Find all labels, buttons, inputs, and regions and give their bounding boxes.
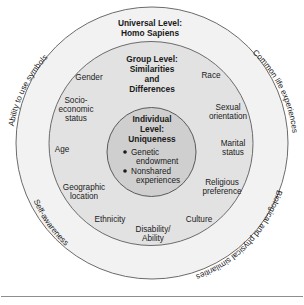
svg-text:Differences: Differences: [129, 84, 175, 94]
svg-text:preference: preference: [202, 187, 242, 196]
svg-text:Individual: Individual: [132, 114, 171, 124]
svg-text:Level:: Level:: [140, 124, 164, 134]
svg-text:Homo Sapiens: Homo Sapiens: [121, 28, 180, 38]
group-label-culture: Culture: [186, 215, 213, 224]
figure-bottom-rule: [1, 296, 303, 297]
group-label-gender: Gender: [75, 73, 103, 82]
diagram-canvas: Ability to use symbols Common life exper…: [0, 0, 304, 305]
group-label-age: Age: [55, 145, 70, 154]
bullet-dot-icon: [123, 169, 127, 173]
universal-level-heading: Universal Level: Homo Sapiens: [118, 18, 182, 38]
bullet-dot-icon: [123, 150, 127, 154]
svg-text:endowment: endowment: [136, 157, 179, 166]
svg-text:and: and: [145, 74, 160, 84]
svg-text:orientation: orientation: [209, 112, 248, 121]
svg-text:Universal Level:: Universal Level:: [118, 18, 182, 28]
svg-text:status: status: [222, 148, 244, 157]
group-label-ethnicity: Ethnicity: [95, 215, 127, 224]
group-label-race: Race: [201, 71, 221, 80]
svg-text:status: status: [65, 114, 87, 123]
svg-text:Uniqueness: Uniqueness: [128, 134, 176, 144]
svg-text:Genetic: Genetic: [131, 148, 159, 157]
concentric-levels-diagram: Ability to use symbols Common life exper…: [0, 0, 304, 305]
svg-text:Group Level:: Group Level:: [126, 54, 178, 64]
svg-text:Socio-: Socio-: [64, 96, 87, 105]
svg-text:economic: economic: [58, 105, 93, 114]
svg-text:Nonshared: Nonshared: [131, 167, 172, 176]
svg-text:location: location: [70, 192, 99, 201]
svg-text:experiences: experiences: [136, 176, 180, 185]
svg-text:Religious: Religious: [205, 178, 239, 187]
svg-text:Marital: Marital: [221, 139, 246, 148]
svg-text:Similarities: Similarities: [130, 64, 175, 74]
svg-text:Ability: Ability: [142, 234, 165, 243]
group-label-marital-status: Marital status: [221, 139, 246, 157]
svg-text:Sexual: Sexual: [215, 103, 240, 112]
svg-text:Geographic: Geographic: [63, 183, 105, 192]
svg-text:Disability/: Disability/: [135, 225, 171, 234]
group-label-religious-preference: Religious preference: [202, 178, 242, 196]
